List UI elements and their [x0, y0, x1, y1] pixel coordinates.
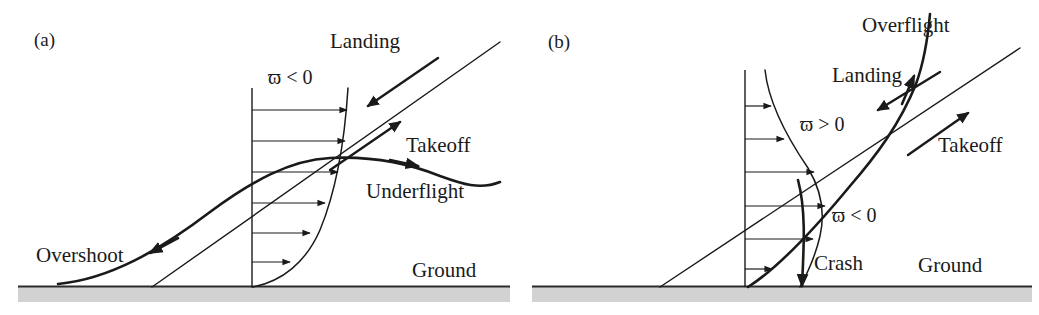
wind-shear-figure: (a) ϖ < 0 Landing Ta	[0, 0, 1039, 315]
ground-label-b: Ground	[918, 253, 983, 277]
takeoff-label-b: Takeoff	[938, 133, 1003, 157]
ground-band-a	[18, 287, 510, 302]
panel-b-letter: (b)	[548, 31, 570, 53]
wind-vectors-a	[252, 110, 347, 262]
underflight-label-a: Underflight	[366, 179, 464, 203]
ground-label-a: Ground	[412, 258, 477, 282]
overflight-trajectory-b	[748, 14, 930, 287]
shear-symbol-a: ϖ < 0	[268, 66, 312, 88]
panel-a: (a) ϖ < 0 Landing Ta	[0, 0, 520, 315]
overshoot-label-a: Overshoot	[36, 243, 124, 267]
landing-label-b: Landing	[832, 63, 902, 87]
landing-label-a: Landing	[330, 29, 400, 53]
ground-band-b	[532, 287, 1032, 302]
panel-b: (b) ϖ > 0 ϖ < 0 Overflight	[520, 0, 1039, 315]
overshoot-direction-arrow-a	[150, 238, 178, 253]
shear-symbol-lower-b: ϖ < 0	[832, 204, 876, 226]
wind-profile-curve-a	[252, 88, 348, 287]
crash-label-b: Crash	[814, 251, 863, 275]
overflight-label-b: Overflight	[862, 13, 950, 37]
nominal-glidepath-a	[152, 42, 500, 287]
panel-a-letter: (a)	[34, 29, 55, 51]
landing-arrow-a[interactable]	[368, 58, 438, 106]
crash-trajectory-b	[798, 180, 804, 286]
takeoff-label-a: Takeoff	[406, 133, 471, 157]
shear-symbol-upper-b: ϖ > 0	[800, 113, 844, 135]
